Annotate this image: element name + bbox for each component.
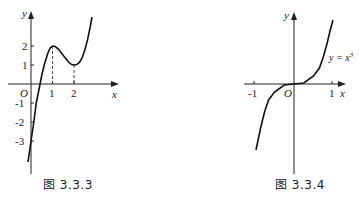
y-axis-arrow-icon bbox=[28, 11, 34, 19]
x-tick-1: 1 bbox=[49, 88, 55, 99]
cubic-curve bbox=[28, 17, 92, 162]
curve-label-exponent: 3 bbox=[350, 51, 354, 59]
cubic-graph-left bbox=[0, 0, 180, 200]
y-tick-1: 1 bbox=[22, 60, 28, 71]
y-axis-label: y bbox=[22, 8, 27, 19]
cubic-graph-right bbox=[180, 0, 359, 200]
figure-caption: 图 3.3.3 bbox=[43, 179, 93, 191]
y-axis-arrow-icon bbox=[291, 12, 297, 20]
x-axis-arrow-icon bbox=[111, 81, 119, 87]
y-tick-neg3: -3 bbox=[15, 136, 24, 147]
origin-label: O bbox=[284, 88, 292, 99]
figure-3-3-3: y x O 1 2 2 1 -1 -2 -3 图 3.3.3 bbox=[0, 0, 180, 200]
x-tick-neg1: -1 bbox=[248, 88, 257, 99]
y-axis-label: y bbox=[284, 10, 289, 21]
curve-label-text: y = x bbox=[329, 52, 350, 63]
y-tick-neg2: -2 bbox=[15, 117, 24, 128]
y-tick-2: 2 bbox=[22, 41, 28, 52]
curve-label: y = x3 bbox=[329, 52, 353, 63]
figure-3-3-4: y x O -1 1 y = x3 图 3.3.4 bbox=[180, 0, 359, 200]
y-tick-neg1: -1 bbox=[15, 98, 24, 109]
x-axis-label: x bbox=[112, 89, 117, 100]
x-tick-2: 2 bbox=[71, 88, 77, 99]
x-axis-label: x bbox=[340, 88, 345, 99]
x-tick-1: 1 bbox=[329, 88, 335, 99]
figure-caption: 图 3.3.4 bbox=[275, 179, 325, 191]
